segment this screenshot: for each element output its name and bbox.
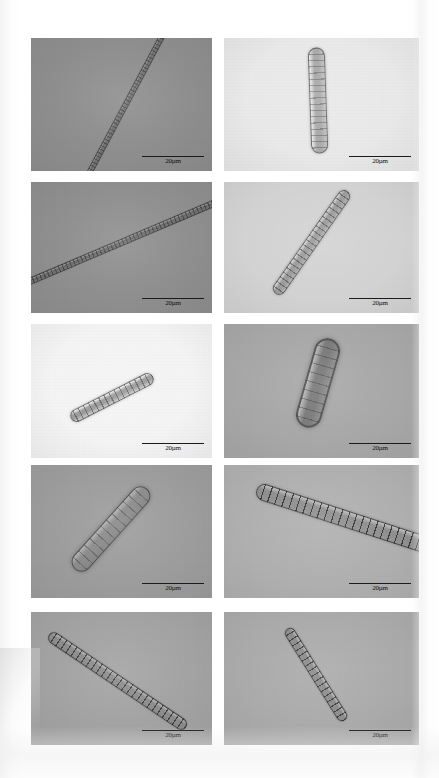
- micrograph-panel: 20µm: [31, 465, 212, 598]
- micrograph-panel: 20µm: [224, 38, 419, 171]
- micrograph-panel: 20µm: [224, 182, 419, 313]
- page-edge-left-shadow: [0, 0, 22, 778]
- micrograph-panel: 20µm: [224, 465, 419, 598]
- micrograph-panel: 20µm: [31, 324, 212, 458]
- micrograph-panel: 20µm: [31, 612, 212, 745]
- filament-organism: [307, 47, 328, 154]
- septa-cross-walls: [307, 47, 328, 154]
- micrograph-panel: 20µm: [31, 182, 212, 313]
- panel-background: [224, 182, 419, 313]
- panel-background: [31, 182, 212, 313]
- micrograph-panel: 20µm: [31, 38, 212, 171]
- micrograph-panel: 20µm: [224, 612, 419, 745]
- micrograph-panel: 20µm: [224, 324, 419, 458]
- figure-plate: 20µm20µm20µm20µm20µm20µm20µm20µm20µm20µm: [0, 0, 439, 778]
